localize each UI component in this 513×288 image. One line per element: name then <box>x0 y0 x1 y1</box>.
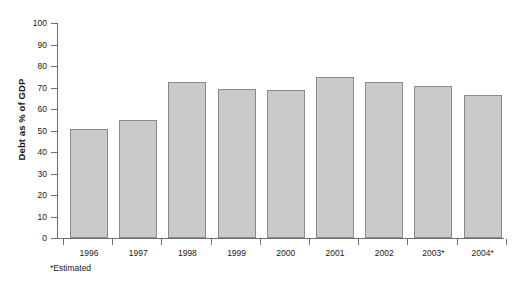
x-axis-tick <box>309 239 310 245</box>
y-axis-tick-label: 10 <box>14 213 47 222</box>
y-axis-tick-label: 100 <box>14 19 47 28</box>
y-axis-title: Debt as % of GDP <box>13 0 31 238</box>
bar-2001 <box>316 77 354 238</box>
x-axis-tick <box>161 239 162 245</box>
x-axis-tick <box>63 239 64 245</box>
chart-footnote: *Estimated <box>50 263 91 273</box>
x-axis-tick <box>358 239 359 245</box>
y-axis-tick-label: 90 <box>14 41 47 50</box>
bar-chart-figure: Debt as % of GDP 1009080706050403020100 … <box>0 0 513 288</box>
y-axis-tick-label: 20 <box>14 191 47 200</box>
x-axis-tick <box>407 239 408 245</box>
bar-2000 <box>267 90 305 238</box>
x-axis-tick <box>211 239 212 245</box>
y-axis-tick-label: 50 <box>14 127 47 136</box>
x-axis-tick <box>457 239 458 245</box>
bar-2004-estimated <box>464 95 502 238</box>
y-axis-tick-label: 60 <box>14 105 47 114</box>
y-axis-tick-label: 30 <box>14 170 47 179</box>
y-axis-tick-label: 40 <box>14 148 47 157</box>
x-axis-tick <box>506 239 507 245</box>
y-axis-tick-label: 80 <box>14 62 47 71</box>
y-axis-tick-label: 0 <box>14 234 47 243</box>
y-axis-tick-label: 70 <box>14 84 47 93</box>
bar-1998 <box>168 82 206 238</box>
y-axis-tick <box>51 238 57 239</box>
x-axis-label-2004-estimated: 2004* <box>453 249 513 258</box>
bar-2002 <box>365 82 403 238</box>
plot-area <box>57 23 500 238</box>
x-axis-tick <box>260 239 261 245</box>
bar-2003-estimated <box>414 86 452 238</box>
x-axis-line <box>57 238 504 239</box>
bar-1999 <box>218 89 256 238</box>
bar-1996 <box>70 129 108 238</box>
x-axis-tick <box>112 239 113 245</box>
bar-1997 <box>119 120 157 238</box>
